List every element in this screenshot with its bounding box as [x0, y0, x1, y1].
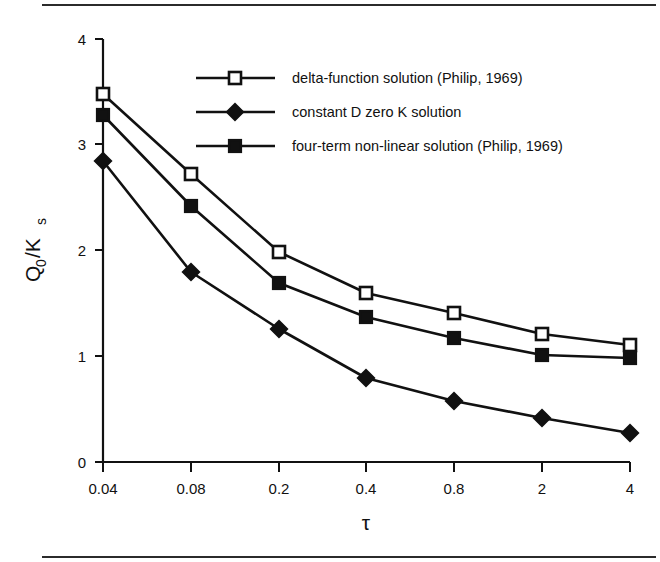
figure-page: 4 3 2 1 0 0.04 0.08 0.2 0.4 0.8 2 4 τ [0, 0, 660, 562]
data-point-marker [185, 200, 197, 212]
x-tick-label-2: 0.2 [269, 480, 290, 497]
legend-entry-four-term-non-linear[interactable]: four-term non-linear solution (Philip, 1… [196, 138, 563, 154]
open-square-marker-icon [229, 72, 241, 84]
data-point-marker [624, 339, 636, 351]
data-point-marker [97, 109, 109, 121]
data-point-marker [97, 88, 109, 100]
y-axis-title-subscript-0: 0 [33, 259, 49, 267]
x-tick-label-1: 0.08 [176, 480, 205, 497]
data-point-marker [360, 311, 372, 323]
x-tick-label-0: 0.04 [88, 480, 117, 497]
y-axis-title-slash-k: /K [21, 238, 44, 258]
line-chart: 4 3 2 1 0 0.04 0.08 0.2 0.4 0.8 2 4 τ [0, 0, 660, 562]
x-tick-label-6: 4 [626, 480, 634, 497]
x-axis-title: τ [362, 511, 371, 534]
data-point-marker [360, 287, 372, 299]
data-point-marker [185, 168, 197, 180]
series-line-delta-function [103, 94, 630, 345]
y-tick-labels: 4 3 2 1 0 [78, 31, 86, 471]
filled-square-marker-icon [229, 140, 241, 152]
data-point-marker [536, 349, 548, 361]
data-point-marker [534, 410, 550, 426]
data-point-marker [624, 352, 636, 364]
legend-label: four-term non-linear solution (Philip, 1… [292, 138, 563, 154]
data-point-marker [622, 425, 638, 441]
data-point-marker [446, 393, 462, 409]
y-tick-label-1: 1 [78, 348, 86, 365]
data-point-marker [448, 332, 460, 344]
filled-diamond-marker-icon [227, 104, 243, 120]
x-tick-group [103, 462, 630, 472]
y-tick-label-0: 0 [78, 454, 86, 471]
data-point-marker [273, 246, 285, 258]
data-point-marker [448, 307, 460, 319]
y-tick-group [95, 39, 103, 462]
data-point-marker [271, 321, 287, 337]
data-point-marker [273, 277, 285, 289]
x-tick-label-5: 2 [538, 480, 546, 497]
y-tick-label-2: 2 [78, 242, 86, 259]
legend: delta-function solution (Philip, 1969) c… [196, 70, 563, 154]
y-axis-title-subscript-s: s [33, 218, 49, 225]
y-axis-title-group: Q 0 /K s [21, 218, 49, 282]
x-tick-label-3: 0.4 [356, 480, 377, 497]
data-point-marker [358, 370, 374, 386]
legend-entry-constant-d-zero-k[interactable]: constant D zero K solution [196, 104, 461, 120]
x-tick-labels: 0.04 0.08 0.2 0.4 0.8 2 4 [88, 480, 634, 497]
data-point-marker [536, 328, 548, 340]
legend-label: constant D zero K solution [292, 104, 461, 120]
y-tick-label-3: 3 [78, 136, 86, 153]
x-tick-label-4: 0.8 [444, 480, 465, 497]
axis-group [103, 39, 630, 462]
legend-entry-delta-function[interactable]: delta-function solution (Philip, 1969) [196, 70, 523, 86]
y-axis-title-q: Q [21, 266, 44, 282]
legend-label: delta-function solution (Philip, 1969) [292, 70, 523, 86]
y-tick-label-4: 4 [78, 31, 86, 48]
